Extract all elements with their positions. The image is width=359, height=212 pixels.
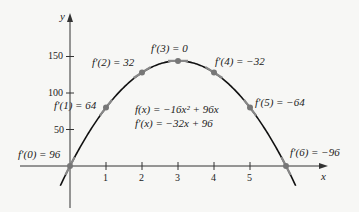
x-tick-5: 5 xyxy=(247,173,252,183)
label-fprime-2: f′(2) = 32 xyxy=(92,57,134,68)
data-point xyxy=(211,70,217,76)
y-tick-100: 100 xyxy=(48,88,63,98)
x-tick-2: 2 xyxy=(139,173,144,183)
y-axis-arrow-icon xyxy=(67,13,73,22)
function-equation: f(x) = −16x² + 96x xyxy=(135,104,219,115)
label-fprime-0: f′(0) = 96 xyxy=(18,149,60,160)
data-point xyxy=(67,163,73,169)
x-tick-1: 1 xyxy=(103,173,108,183)
label-fprime-1: f′(1) = 64 xyxy=(54,100,96,111)
derivative-equation: f′(x) = −32x + 96 xyxy=(135,118,213,129)
x-tick-3: 3 xyxy=(175,173,180,183)
label-fprime-3: f′(3) = 0 xyxy=(151,43,188,54)
y-tick-50: 50 xyxy=(54,125,64,135)
y-tick-150: 150 xyxy=(48,51,63,61)
data-point xyxy=(283,163,289,169)
x-tick-4: 4 xyxy=(211,173,216,183)
x-axis-arrow-icon xyxy=(319,163,328,169)
label-fprime-5: f′(5) = −64 xyxy=(255,97,305,108)
label-fprime-4: f′(4) = −32 xyxy=(215,56,265,67)
chart: y x 150 100 50 1 2 3 4 5 f′(0) = 96 f′(1… xyxy=(0,0,359,212)
data-point xyxy=(139,70,145,76)
y-axis-label: y xyxy=(60,11,65,22)
data-point xyxy=(175,58,181,64)
data-point xyxy=(247,105,253,111)
data-point xyxy=(103,105,109,111)
label-fprime-6: f′(6) = −96 xyxy=(290,147,340,158)
x-axis-label: x xyxy=(321,171,326,182)
